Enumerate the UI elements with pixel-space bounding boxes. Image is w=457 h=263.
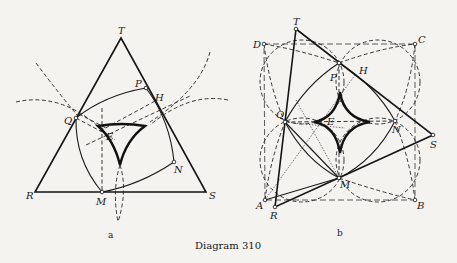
label-n: N <box>391 124 402 135</box>
point-d <box>262 42 266 46</box>
label-m: M <box>95 196 107 207</box>
diagram-caption: Diagram 310 <box>195 240 261 251</box>
point-q <box>74 116 78 120</box>
label-h: H <box>358 65 368 76</box>
label-m: M <box>339 179 351 190</box>
label-r: R <box>269 210 278 221</box>
line-am <box>265 178 339 200</box>
label-e: E <box>105 131 114 142</box>
dashed-curve-aq <box>265 122 285 200</box>
label-s: S <box>430 139 437 150</box>
point-n <box>393 119 397 123</box>
label-s: S <box>209 190 216 201</box>
dashed-line-eh2 <box>100 100 157 131</box>
sublabel-b: b <box>337 228 343 238</box>
figure-b: T D C P H Q E N S M A R B b <box>252 16 437 238</box>
label-p: P <box>134 78 142 89</box>
label-a: A <box>255 200 263 211</box>
arc-nm <box>102 162 174 192</box>
point-a <box>263 198 267 202</box>
dashed-arc <box>115 165 120 222</box>
sublabel-a: a <box>108 230 114 240</box>
label-h: H <box>154 92 164 103</box>
dashed-line-qn <box>285 121 395 122</box>
dashed-arc <box>36 63 78 116</box>
point-p <box>144 86 148 90</box>
dashed-curve-mb <box>339 178 415 200</box>
label-b: B <box>416 200 424 211</box>
arc-qp <box>76 88 146 118</box>
point-t <box>294 27 298 31</box>
arc-mq <box>76 118 102 192</box>
point-r <box>273 205 277 209</box>
dashed-arc <box>16 100 100 128</box>
astroid-curve <box>314 92 370 153</box>
label-d: D <box>252 39 261 50</box>
dashed-arc <box>150 52 210 122</box>
figure-a: T R S P H Q E N M a <box>16 25 228 240</box>
dashed-curve-cn <box>395 44 415 121</box>
diagram-canvas: T R S P H Q E N M a <box>0 0 457 263</box>
label-n: N <box>173 164 184 175</box>
label-p: P <box>329 72 337 83</box>
label-t: T <box>118 25 126 36</box>
label-r: R <box>25 190 34 201</box>
point-s <box>431 133 435 137</box>
point-p <box>337 61 341 65</box>
point-m <box>100 190 104 194</box>
label-t: T <box>293 16 301 27</box>
point-q <box>283 120 287 124</box>
triangle-rst-b <box>275 29 433 207</box>
arc-nm-b <box>339 121 395 178</box>
label-q: Q <box>276 109 284 120</box>
point-c <box>413 42 417 46</box>
dashed-curve-pc <box>339 44 415 63</box>
label-q: Q <box>64 115 72 126</box>
label-c: C <box>418 34 426 45</box>
dashed-arc <box>118 165 124 222</box>
label-e: E <box>326 116 335 127</box>
